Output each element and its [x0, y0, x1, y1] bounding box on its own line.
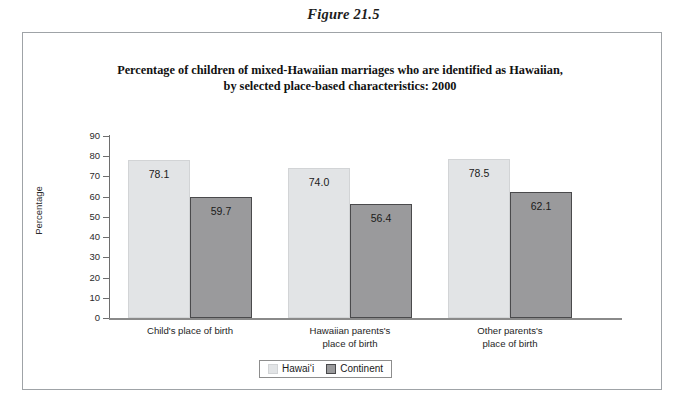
figure-caption: Figure 21.5	[0, 6, 687, 23]
chart-legend: HawaiʻiContinent	[259, 360, 392, 378]
x-axis-category-label-line: Other parents's	[430, 325, 590, 338]
x-axis-category-label-line: place of birth	[430, 338, 590, 351]
chart-title: Percentage of children of mixed-Hawaiian…	[40, 62, 640, 94]
y-axis-tick-mark	[103, 237, 109, 238]
bar-hawaii: 74.0	[288, 168, 350, 318]
y-axis-tick-label: 30	[66, 251, 100, 262]
y-axis-tick-label: 40	[66, 231, 100, 242]
y-axis-tick-label: 90	[66, 130, 100, 141]
bar-value-label: 59.7	[191, 205, 251, 217]
y-axis-tick-mark	[103, 257, 109, 258]
bar-value-label: 78.1	[129, 168, 189, 180]
bar-hawaii: 78.1	[128, 160, 190, 318]
x-axis-category-label: Other parents'splace of birth	[430, 325, 590, 350]
y-axis-tick-label: 70	[66, 170, 100, 181]
bar-continent: 56.4	[350, 204, 412, 318]
y-axis-tick-label: 60	[66, 191, 100, 202]
y-axis-tick-label: 80	[66, 150, 100, 161]
bar-hawaii: 78.5	[448, 159, 510, 318]
bar-value-label: 78.5	[449, 167, 509, 179]
y-axis-tick-mark	[103, 197, 109, 198]
y-axis-tick-mark	[103, 156, 109, 157]
y-axis-title: Percentage	[33, 163, 44, 259]
y-axis-tick-label: 20	[66, 272, 100, 283]
x-axis-category-label: Child's place of birth	[110, 325, 270, 338]
bar-value-label: 74.0	[289, 176, 349, 188]
bar-continent: 59.7	[190, 197, 252, 318]
y-axis-tick-mark	[103, 318, 109, 319]
y-axis-tick-label: 50	[66, 211, 100, 222]
bar-value-label: 62.1	[511, 200, 571, 212]
legend-label: Continent	[340, 363, 383, 374]
legend-entry-hawaii: Hawaiʻi	[268, 363, 314, 374]
x-axis-category-label-line: Child's place of birth	[110, 325, 270, 338]
bar-continent: 62.1	[510, 192, 572, 318]
legend-label: Hawaiʻi	[282, 363, 314, 374]
legend-entry-continent: Continent	[326, 363, 383, 374]
bar-value-label: 56.4	[351, 212, 411, 224]
x-axis-category-label-line: place of birth	[270, 338, 430, 351]
x-axis-category-label-line: Hawaiian parents's	[270, 325, 430, 338]
y-axis-tick-label: 0	[66, 312, 100, 323]
x-axis-line	[109, 318, 622, 320]
y-axis-tick-mark	[103, 278, 109, 279]
y-axis-tick-mark	[103, 136, 109, 137]
y-axis-tick-label: 10	[66, 292, 100, 303]
chart-title-line-1: Percentage of children of mixed-Hawaiian…	[117, 63, 563, 77]
legend-swatch-icon	[268, 364, 278, 374]
legend-swatch-icon	[326, 364, 336, 374]
y-axis-tick-mark	[103, 176, 109, 177]
y-axis-tick-mark	[103, 298, 109, 299]
y-axis-tick-mark	[103, 217, 109, 218]
chart-title-line-2: by selected place-based characteristics:…	[40, 78, 640, 94]
x-axis-category-label: Hawaiian parents'splace of birth	[270, 325, 430, 350]
plot-area: 78.159.774.056.478.562.1	[110, 136, 620, 318]
y-axis-tick-labels: 9080706050403020100	[62, 0, 100, 412]
